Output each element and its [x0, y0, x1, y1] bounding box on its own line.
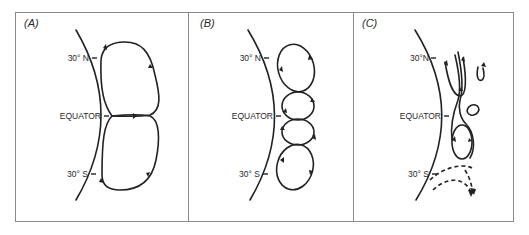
streamline-mid-c — [452, 55, 460, 140]
cell-1-b — [272, 40, 319, 96]
lat-30n-a: 30° N — [68, 53, 89, 63]
panel-b: (B) 30° N EQUATOR 30° S — [200, 17, 320, 200]
lat-30s-c: 30° S — [408, 169, 429, 179]
cell-2-b — [282, 92, 314, 120]
equator-a: EQUATOR — [60, 111, 101, 121]
equator-b: EQUATOR — [232, 111, 273, 121]
dashed-flow-lower-c — [433, 180, 470, 190]
lat-30n-c: 30°N — [410, 53, 429, 63]
cell-north-a — [101, 42, 159, 116]
cell-3-b — [282, 119, 314, 145]
lat-30s-b: 30° S — [239, 169, 260, 179]
panel-b-label: (B) — [200, 17, 215, 29]
hook-streamline-c — [477, 67, 484, 80]
cell-c — [452, 125, 472, 159]
lat-30s-a: 30° S — [67, 169, 88, 179]
equator-c: EQUATOR — [400, 111, 441, 121]
small-eddy-c — [465, 103, 480, 117]
lat-30n-b: 30° N — [240, 53, 261, 63]
panel-a: (A) 30° N EQUATOR 30° S — [24, 17, 159, 200]
panel-a-label: (A) — [24, 17, 39, 29]
panel-c-label: (C) — [362, 17, 378, 29]
cell-south-a — [102, 115, 158, 190]
cell-4-b — [272, 140, 319, 194]
circulation-diagram: (A) 30° N EQUATOR 30° S (B) 30° N EQUATO… — [0, 0, 529, 235]
panel-c: (C) 30°N EQUATOR 30° S — [362, 17, 486, 200]
dashed-flow-upper-c — [430, 166, 472, 180]
